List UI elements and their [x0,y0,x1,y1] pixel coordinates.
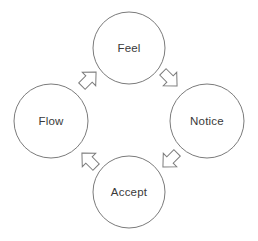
node-group-feel[interactable]: Feel [93,12,165,84]
arrow-feel-to-notice [156,65,184,93]
arrow-accept-to-flow [75,146,103,174]
arrow-notice-to-accept [156,146,184,174]
node-label-flow: Flow [38,115,64,127]
node-group-notice[interactable]: Notice [170,84,244,158]
arrow-flow-to-feel [75,65,103,93]
node-label-accept: Accept [111,186,148,198]
cycle-diagram-canvas: Feel Notice Accept Flow [0,0,258,241]
node-label-feel: Feel [117,42,140,54]
node-label-notice: Notice [190,115,224,127]
cycle-diagram: Feel Notice Accept Flow [0,0,258,241]
node-group-flow[interactable]: Flow [14,84,88,158]
node-group-accept[interactable]: Accept [93,156,165,228]
